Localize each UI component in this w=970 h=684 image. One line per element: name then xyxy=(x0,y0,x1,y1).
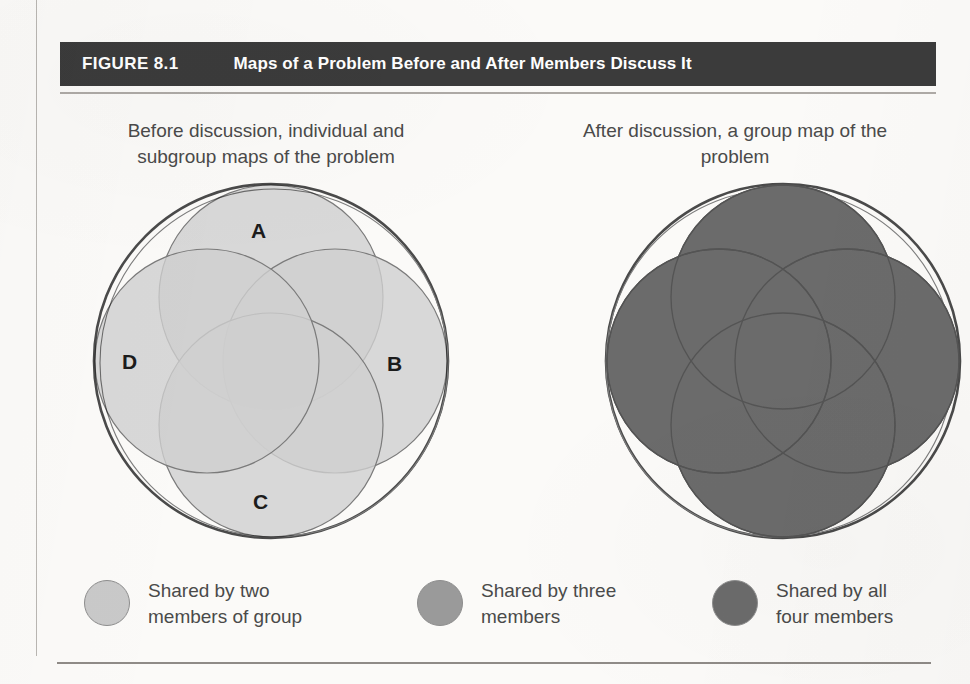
legend-swatch-icon xyxy=(417,580,463,626)
figure-title-bar: FIGURE 8.1 Maps of a Problem Before and … xyxy=(60,42,936,86)
legend-item-two-members: Shared by two members of group xyxy=(84,578,302,630)
venn-diagram-after xyxy=(600,178,966,544)
left-panel-caption: Before discussion, individual and subgro… xyxy=(96,118,436,170)
legend-item-four-members: Shared by all four members xyxy=(712,578,893,630)
legend-swatch-icon xyxy=(712,580,758,626)
bottom-rule xyxy=(57,662,931,664)
legend-label: Shared by three members xyxy=(481,578,616,630)
member-circle-d xyxy=(607,249,831,473)
venn-label-a: A xyxy=(251,219,266,243)
legend-swatch-icon xyxy=(84,580,130,626)
title-underline-rule xyxy=(60,92,936,94)
legend-label: Shared by two members of group xyxy=(148,578,302,630)
venn-label-d: D xyxy=(122,350,137,374)
figure-title-text: Maps of a Problem Before and After Membe… xyxy=(234,54,692,74)
legend-item-three-members: Shared by three members xyxy=(417,578,616,630)
right-panel-caption: After discussion, a group map of the pro… xyxy=(570,118,900,170)
page-edge-line xyxy=(36,0,37,656)
venn-label-c: C xyxy=(253,490,268,514)
figure-page: FIGURE 8.1 Maps of a Problem Before and … xyxy=(0,0,970,684)
legend-label: Shared by all four members xyxy=(776,578,893,630)
venn-label-b: B xyxy=(387,352,402,376)
figure-number-label: FIGURE 8.1 xyxy=(82,54,179,74)
